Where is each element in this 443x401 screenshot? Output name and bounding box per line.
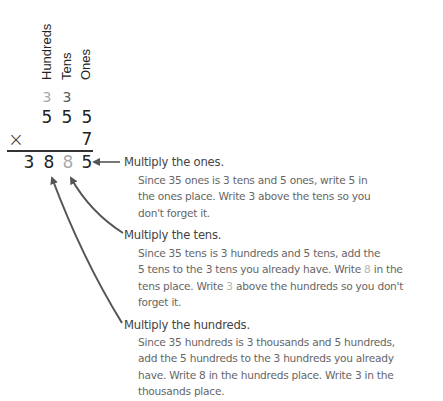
text: in the (371, 263, 403, 275)
note-ones-line-1: Since 35 ones is 3 tens and 5 ones, writ… (138, 172, 371, 188)
note-ones-line-3: don't forget it. (138, 205, 371, 221)
note-tens-line-1: Since 35 tens is 3 hundreds and 5 tens, … (138, 245, 403, 261)
note-ones-line-2: the ones place. Write 3 above the tens s… (138, 188, 371, 204)
arrow-tens (71, 178, 123, 233)
note-ones-body: Since 35 ones is 3 tens and 5 ones, writ… (138, 172, 371, 221)
note-tens-body: Since 35 tens is 3 hundreds and 5 tens, … (138, 245, 403, 310)
note-tens-heading: Multiply the tens. (124, 228, 221, 242)
note-hundreds-line-3: have. Write 8 in the hundreds place. Wri… (138, 367, 395, 383)
text: tens place. Write (138, 280, 226, 292)
note-hundreds-body: Since 35 hundreds is 3 thousands and 5 h… (138, 334, 395, 399)
arrow-hundreds (52, 178, 122, 323)
text: 5 tens to the 3 tens you already have. W… (138, 263, 364, 275)
note-hundreds-line-1: Since 35 hundreds is 3 thousands and 5 h… (138, 334, 395, 350)
note-ones-heading: Multiply the ones. (124, 155, 224, 169)
note-hundreds-line-4: thousands place. (138, 383, 395, 399)
note-hundreds-line-2: add the 5 hundreds to the 3 hundreds you… (138, 350, 395, 366)
note-tens-line-4: forget it. (138, 294, 403, 310)
text: above the hundreds so you don't (233, 280, 403, 292)
note-hundreds-heading: Multiply the hundreds. (124, 318, 250, 332)
note-tens-line-2: 5 tens to the 3 tens you already have. W… (138, 261, 403, 277)
note-tens-line-3: tens place. Write 3 above the hundreds s… (138, 278, 403, 294)
